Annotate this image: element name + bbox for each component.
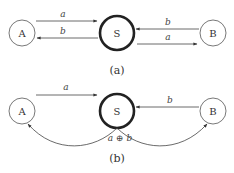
edge-s-to-a: b — [37, 26, 98, 38]
svg-text:a: a — [165, 32, 170, 42]
node-a-top: A — [9, 20, 35, 46]
panel-b: A S B a b a ⊕ b (b) — [9, 82, 226, 165]
node-b-top: B — [200, 20, 226, 46]
caption-a: (a) — [109, 64, 124, 77]
svg-text:a: a — [63, 82, 68, 92]
edge-a-to-s-b: a — [36, 82, 97, 95]
edge-b-to-s-b: b — [136, 95, 199, 107]
node-label: S — [114, 28, 121, 39]
node-label: A — [17, 106, 26, 117]
node-s-bottom: S — [100, 94, 134, 128]
caption-b: (b) — [109, 152, 125, 165]
edge-b-to-s: b — [136, 17, 199, 29]
svg-text:b: b — [165, 17, 171, 27]
panel-a: A S B a b b a (a) — [9, 9, 226, 77]
broadcast-label: a ⊕ b — [108, 133, 133, 143]
edge-s-to-a-broadcast — [28, 124, 117, 146]
network-coding-diagram: A S B a b b a (a) — [0, 0, 234, 173]
edge-a-to-s: a — [36, 9, 97, 21]
svg-text:b: b — [167, 95, 173, 105]
node-label: A — [17, 28, 26, 39]
node-label: S — [114, 106, 121, 117]
svg-text:a: a — [60, 9, 65, 19]
node-a-bottom: A — [9, 98, 35, 124]
node-label: B — [209, 28, 216, 39]
node-s-top: S — [100, 16, 134, 50]
node-b-bottom: B — [200, 98, 226, 124]
node-label: B — [209, 106, 216, 117]
edge-s-to-b: a — [137, 32, 197, 44]
svg-text:b: b — [60, 26, 66, 36]
